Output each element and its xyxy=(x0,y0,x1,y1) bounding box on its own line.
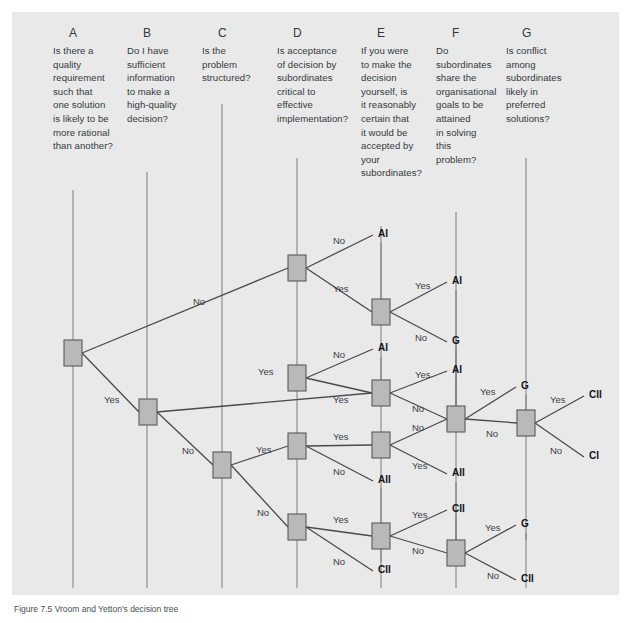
decision-node-E1 xyxy=(372,299,390,325)
edge-label-yes-18: Yes xyxy=(480,386,496,397)
edge-label-no-15: No xyxy=(333,466,345,477)
decision-node-D1 xyxy=(288,255,306,281)
question-line: preferred xyxy=(506,98,590,112)
question-line: decision xyxy=(361,71,445,85)
decision-node-F1 xyxy=(447,406,465,432)
outcome-out_AI_4: AI xyxy=(452,364,462,375)
question-line: Do I have xyxy=(127,44,211,58)
column-letter-g: G xyxy=(522,26,532,40)
edge-D3-to-E3 xyxy=(306,445,372,446)
decision-node-G1 xyxy=(517,410,535,436)
edge-label-yes-17: Yes xyxy=(412,460,428,471)
column-question-e: If you wereto make thedecisionyourself, … xyxy=(361,44,445,180)
column-question-c: Is theproblemstructured? xyxy=(202,44,286,85)
edge-label-no-10: No xyxy=(333,349,345,360)
question-line: in solving xyxy=(436,126,520,140)
decision-node-D4 xyxy=(288,514,306,540)
question-line: critical to xyxy=(277,85,361,99)
question-line: yourself, is xyxy=(361,85,445,99)
question-line: this xyxy=(436,139,520,153)
question-line: accepted by xyxy=(361,139,445,153)
figure-root: AIs there aqualityrequirementsuch thaton… xyxy=(0,0,631,623)
decision-node-C1 xyxy=(213,452,231,478)
decision-node-D3 xyxy=(288,433,306,459)
decision-node-A1 xyxy=(64,340,82,366)
question-line: quality xyxy=(53,58,137,72)
question-line: information xyxy=(127,71,211,85)
outcome-out_AI_1: AI xyxy=(378,228,388,239)
question-line: solutions? xyxy=(506,112,590,126)
column-letter-c: C xyxy=(218,26,227,40)
edge-label-yes-12: Yes xyxy=(415,369,431,380)
edge-label-yes-22: Yes xyxy=(333,514,349,525)
edge-D2-to-E2 xyxy=(306,378,372,393)
edge-label-no-6: No xyxy=(333,235,345,246)
column-letter-b: B xyxy=(143,26,151,40)
outcome-out_AI_2: AI xyxy=(452,275,462,286)
outcome-out_G_3: G xyxy=(521,518,529,529)
column-question-a: Is there aqualityrequirementsuch thatone… xyxy=(53,44,137,153)
question-line: Is there a xyxy=(53,44,137,58)
edge-D4-to-E4 xyxy=(306,527,372,536)
edge-label-yes-14: Yes xyxy=(333,431,349,442)
edge-label-no-5: No xyxy=(257,507,269,518)
question-line: among xyxy=(506,58,590,72)
figure-caption: Figure 7.5 Vroom and Yetton's decision t… xyxy=(14,604,178,614)
edge-label-yes-26: Yes xyxy=(485,522,501,533)
question-line: it would be xyxy=(361,126,445,140)
decision-node-E3 xyxy=(372,432,390,458)
edge-F1-to-G1 xyxy=(465,419,517,423)
outcome-out_G_2: G xyxy=(521,380,529,391)
question-line: Is acceptance xyxy=(277,44,361,58)
edge-label-yes-1: Yes xyxy=(104,394,120,405)
question-line: is likely to be xyxy=(53,112,137,126)
outcome-out_G_1: G xyxy=(452,335,460,346)
edge-label-no-19: No xyxy=(486,428,498,439)
question-line: one solution xyxy=(53,98,137,112)
decision-node-E4 xyxy=(372,523,390,549)
question-line: of decision by xyxy=(277,58,361,72)
edge-B1-to-C1 xyxy=(157,412,213,465)
question-line: to make the xyxy=(361,58,445,72)
question-line: such that xyxy=(53,85,137,99)
question-line: Is conflict xyxy=(506,44,590,58)
question-line: problem? xyxy=(436,153,520,167)
question-line: to make a xyxy=(127,85,211,99)
question-line: decision? xyxy=(127,112,211,126)
question-line: subordinates xyxy=(277,71,361,85)
column-letter-d: D xyxy=(293,26,302,40)
tree-nodes xyxy=(64,255,535,566)
edge-label-no-23: No xyxy=(333,556,345,567)
edge-label-yes-24: Yes xyxy=(412,509,428,520)
decision-node-B1 xyxy=(139,399,157,425)
question-line: than another? xyxy=(53,139,137,153)
decision-node-E2 xyxy=(372,380,390,406)
question-line: If you were xyxy=(361,44,445,58)
column-question-d: Is acceptanceof decision bysubordinatesc… xyxy=(277,44,361,126)
edge-label-yes-2: Yes xyxy=(258,366,274,377)
question-line: subordinates? xyxy=(361,166,445,180)
outcome-out_AI_3: AI xyxy=(378,342,388,353)
edge-label-no-16: No xyxy=(412,422,424,433)
node-stub-lines xyxy=(381,243,526,562)
outcome-out_CII_1: CII xyxy=(589,389,602,400)
edge-label-no-3: No xyxy=(182,445,194,456)
edge-label-yes-8: Yes xyxy=(415,280,431,291)
column-question-g: Is conflictamongsubordinateslikely inpre… xyxy=(506,44,590,126)
decision-node-F2 xyxy=(447,540,465,566)
outcome-out_AII_2: AII xyxy=(452,467,465,478)
edge-label-yes-4: Yes xyxy=(256,444,272,455)
edge-label-no-27: No xyxy=(487,570,499,581)
question-line: certain that xyxy=(361,112,445,126)
outcome-out_CII_4: CII xyxy=(521,573,534,584)
column-question-b: Do I havesufficientinformationto make ah… xyxy=(127,44,211,126)
edge-label-no-13: No xyxy=(412,403,424,414)
edge-label-yes-7: Yes xyxy=(333,283,349,294)
edge-label-no-0: No xyxy=(193,296,205,307)
question-line: subordinates xyxy=(506,71,590,85)
column-letter-a: A xyxy=(69,26,77,40)
edge-label-no-9: No xyxy=(415,332,427,343)
column-letter-f: F xyxy=(452,26,460,40)
outcome-out_AII_1: AII xyxy=(378,474,391,485)
edge-label-no-21: No xyxy=(550,445,562,456)
